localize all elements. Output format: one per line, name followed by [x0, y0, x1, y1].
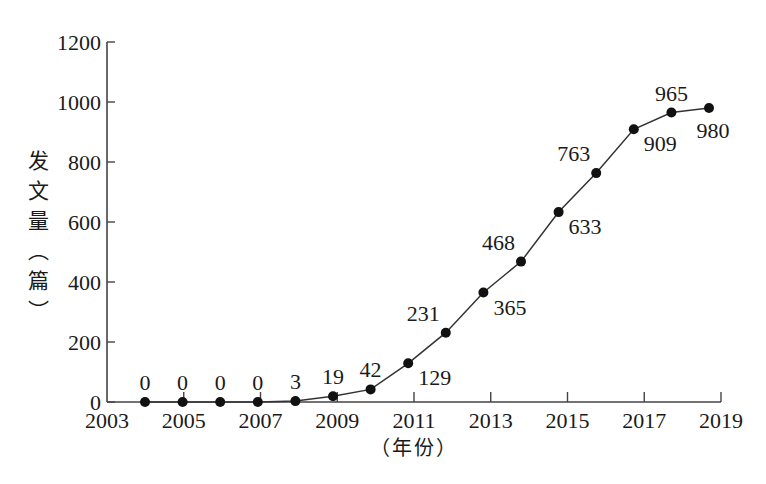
y-tick-label: 400 [68, 270, 101, 295]
x-tick-label: 2007 [239, 408, 283, 433]
y-axis-label-char: ︵ [28, 240, 49, 262]
data-label: 365 [493, 295, 526, 320]
x-tick-label: 2015 [546, 408, 590, 433]
data-label: 19 [322, 364, 344, 389]
y-axis-label-char: 篇 [28, 270, 49, 292]
data-label: 965 [655, 81, 688, 106]
data-point-marker [516, 257, 526, 267]
y-axis-label-char: 文 [28, 180, 49, 202]
data-label: 3 [290, 369, 301, 394]
data-label: 0 [215, 370, 226, 395]
data-label: 0 [140, 370, 151, 395]
y-axis-label-char: 发 [28, 150, 49, 172]
data-point-marker [478, 288, 488, 298]
data-label: 633 [569, 214, 602, 239]
data-label: 0 [177, 370, 188, 395]
data-label: 0 [252, 370, 263, 395]
data-point-marker [178, 397, 188, 407]
data-point-marker [704, 103, 714, 113]
y-tick-label: 1200 [57, 30, 101, 55]
data-label: 980 [697, 118, 730, 143]
y-tick-label: 200 [68, 330, 101, 355]
axes [107, 42, 721, 402]
x-tick-label: 2011 [392, 408, 435, 433]
data-label: 231 [407, 301, 440, 326]
x-tick-label: 2005 [162, 408, 206, 433]
data-labels: 000031942129231365468633763909965980 [140, 81, 730, 396]
data-point-marker [591, 168, 601, 178]
data-label: 129 [418, 365, 451, 390]
data-point-marker [140, 397, 150, 407]
data-series-line [140, 103, 714, 407]
y-axis-label-char: ︶ [28, 300, 49, 322]
data-point-marker [403, 358, 413, 368]
x-tick-label: 2003 [85, 408, 129, 433]
x-tick-label: 2019 [699, 408, 743, 433]
data-point-marker [441, 328, 451, 338]
data-point-marker [366, 384, 376, 394]
data-label: 42 [360, 357, 382, 382]
y-tick-label: 1000 [57, 90, 101, 115]
x-tick-label: 2009 [315, 408, 359, 433]
series-line [145, 108, 709, 402]
y-axis-label-char: 量 [28, 210, 49, 232]
x-tick-label: 2013 [469, 408, 513, 433]
x-axis-label: （年份） [370, 432, 458, 461]
chart-canvas: 020040060080010001200 200320052007200920… [0, 0, 766, 484]
x-tick-label: 2017 [622, 408, 666, 433]
data-point-marker [290, 396, 300, 406]
y-tick-label: 600 [68, 210, 101, 235]
data-point-marker [253, 397, 263, 407]
data-label: 763 [557, 141, 590, 166]
data-point-marker [629, 124, 639, 134]
data-point-marker [554, 207, 564, 217]
data-point-marker [666, 108, 676, 118]
data-point-marker [328, 391, 338, 401]
data-label: 909 [644, 131, 677, 156]
data-label: 468 [482, 230, 515, 255]
y-tick-label: 800 [68, 150, 101, 175]
data-point-marker [215, 397, 225, 407]
